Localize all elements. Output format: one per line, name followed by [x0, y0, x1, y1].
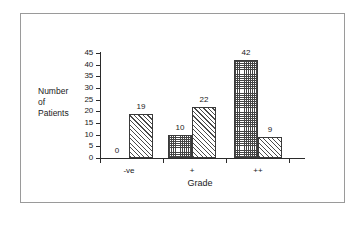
y-axis-tick-label: 0: [71, 154, 93, 162]
x-axis-tick-mark: [226, 159, 227, 163]
bar-value-label: 10: [168, 124, 192, 132]
bar: [258, 137, 282, 158]
x-axis-category-label: -ve: [109, 166, 149, 175]
bar: [234, 60, 258, 158]
bar-value-label: 9: [258, 126, 282, 134]
bar: [192, 107, 216, 158]
y-axis-tick-label: 35: [71, 72, 93, 80]
x-axis-tick-mark: [163, 159, 164, 163]
y-axis-tick-mark: [96, 123, 100, 124]
y-axis-tick-label: 5: [71, 142, 93, 150]
y-axis-tick-mark: [96, 76, 100, 77]
y-axis-tick-label: 45: [71, 49, 93, 57]
y-axis-tick-mark: [96, 65, 100, 66]
x-axis-category-label: +: [172, 166, 212, 175]
x-axis-title: Grade: [160, 178, 240, 188]
x-axis-tick-mark: [289, 159, 290, 163]
bar: [129, 114, 153, 158]
y-axis-tick-label: 15: [71, 119, 93, 127]
x-axis-category-label: ++: [238, 166, 278, 175]
x-axis-line: [100, 158, 305, 159]
y-axis-title-line: of: [38, 97, 74, 108]
y-axis-tick-label: 20: [71, 107, 93, 115]
y-axis-tick-label: 40: [71, 61, 93, 69]
y-axis-tick-mark: [96, 146, 100, 147]
y-axis-title-line: Number: [38, 86, 74, 97]
y-axis-tick-mark: [96, 53, 100, 54]
bar-value-label: 19: [129, 103, 153, 111]
plot-area: 0104219229: [101, 53, 302, 158]
x-axis-tick-mark: [100, 159, 101, 163]
y-axis-title-line: Patients: [38, 108, 74, 119]
y-axis-tick-mark: [96, 88, 100, 89]
y-axis-tick-label: 25: [71, 96, 93, 104]
y-axis-tick-mark: [96, 111, 100, 112]
y-axis-tick-mark: [96, 100, 100, 101]
bar-value-label: 22: [192, 96, 216, 104]
bar: [168, 135, 192, 158]
y-axis-title: NumberofPatients: [38, 86, 74, 119]
y-axis-tick-label: 30: [71, 84, 93, 92]
bar-value-label: 42: [234, 49, 258, 57]
y-axis-tick-label: 10: [71, 131, 93, 139]
bar-value-label: 0: [105, 147, 129, 155]
y-axis-tick-mark: [96, 135, 100, 136]
